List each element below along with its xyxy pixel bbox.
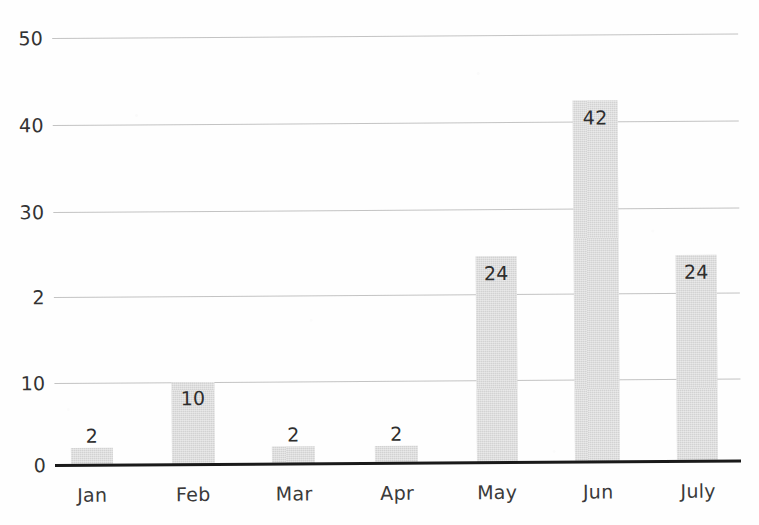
x-tick-feb: Feb [163,483,223,505]
y-tick-20: 2 [5,286,45,308]
bar-may [476,256,518,463]
plot-area: 50 40 30 2 10 0 2 10 2 2 24 42 24 Jan Fe… [0,0,759,525]
bar-value-feb: 10 [171,387,214,409]
bar-value-apr: 2 [375,423,418,445]
bar-chart: 50 40 30 2 10 0 2 10 2 2 24 42 24 Jan Fe… [0,0,759,525]
bar-july [676,255,718,462]
y-tick-40: 40 [4,114,44,136]
bar-jun [573,100,620,462]
y-tick-0: 0 [6,454,46,476]
y-tick-30: 30 [4,201,44,223]
x-tick-july: July [668,480,728,502]
x-tick-jan: Jan [62,484,122,506]
bar-value-july: 24 [676,261,717,283]
bar-value-mar: 2 [272,423,315,445]
y-tick-50: 50 [3,27,43,49]
gridline-30 [53,207,739,213]
gridline-40 [53,120,739,126]
bar-value-jan: 2 [71,425,113,447]
gridline-50 [52,33,738,39]
x-tick-apr: Apr [367,482,427,504]
bar-value-jun: 42 [573,106,618,128]
bar-value-may: 24 [476,262,517,284]
gridline-10 [54,378,740,384]
x-tick-mar: Mar [264,482,324,504]
x-tick-may: May [467,481,527,503]
x-tick-jun: Jun [568,480,628,502]
gridline-20 [54,292,740,298]
y-tick-10: 10 [5,372,45,394]
